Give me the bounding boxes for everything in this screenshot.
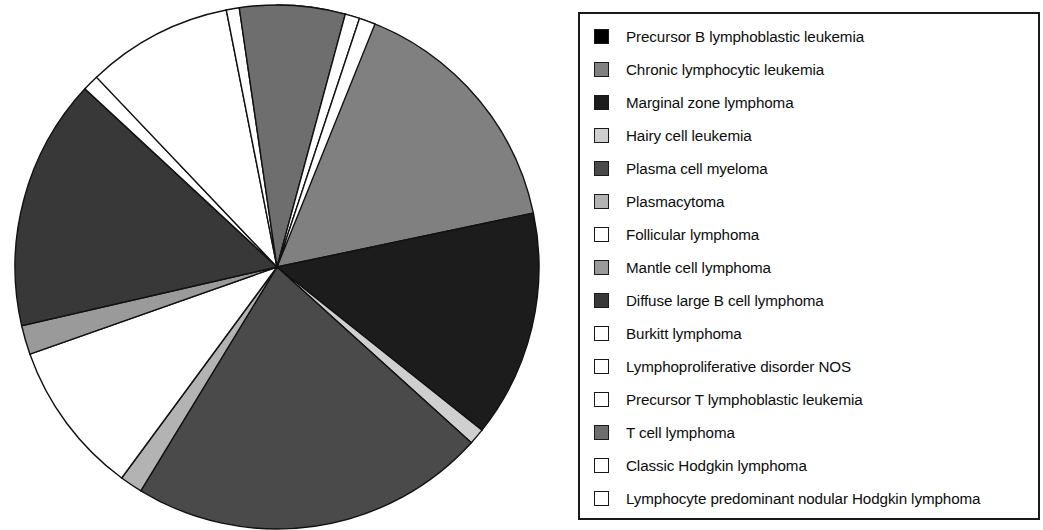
legend-box: Precursor B lymphoblastic leukemiaChroni…: [578, 12, 1040, 520]
legend-label: Precursor B lymphoblastic leukemia: [626, 29, 864, 44]
legend-item: Lymphoproliferative disorder NOS: [580, 350, 1038, 383]
legend-list: Precursor B lymphoblastic leukemiaChroni…: [580, 20, 1038, 515]
legend-swatch: [594, 95, 609, 110]
legend-swatch: [594, 29, 609, 44]
legend-item: Mantle cell lymphoma: [580, 251, 1038, 284]
legend-swatch: [594, 194, 609, 209]
legend-item: Hairy cell leukemia: [580, 119, 1038, 152]
pie-chart-area: [0, 0, 560, 530]
legend-item: Follicular lymphoma: [580, 218, 1038, 251]
legend-swatch: [594, 392, 609, 407]
legend-label: Marginal zone lymphoma: [626, 95, 793, 110]
legend-item: Burkitt lymphoma: [580, 317, 1038, 350]
legend-swatch: [594, 260, 609, 275]
legend-label: Mantle cell lymphoma: [626, 260, 771, 275]
legend-swatch: [594, 293, 609, 308]
legend-label: Burkitt lymphoma: [626, 326, 742, 341]
legend-item: Plasma cell myeloma: [580, 152, 1038, 185]
pie-chart-svg: [0, 0, 560, 530]
pie-slice-group: [15, 5, 539, 529]
legend-label: Follicular lymphoma: [626, 227, 759, 242]
legend-label: Chronic lymphocytic leukemia: [626, 62, 824, 77]
legend-swatch: [594, 491, 609, 506]
legend-item: Chronic lymphocytic leukemia: [580, 53, 1038, 86]
legend-item: Classic Hodgkin lymphoma: [580, 449, 1038, 482]
legend-label: Hairy cell leukemia: [626, 128, 752, 143]
legend-item: Plasmacytoma: [580, 185, 1038, 218]
legend-label: Lymphoproliferative disorder NOS: [626, 359, 851, 374]
pie-chart-figure: Precursor B lymphoblastic leukemiaChroni…: [0, 0, 1043, 530]
legend-swatch: [594, 326, 609, 341]
legend-item: Precursor B lymphoblastic leukemia: [580, 20, 1038, 53]
legend-label: Precursor T lymphoblastic leukemia: [626, 392, 863, 407]
legend-swatch: [594, 62, 609, 77]
legend-swatch: [594, 359, 609, 374]
legend-label: Plasmacytoma: [626, 194, 724, 209]
legend-swatch: [594, 458, 609, 473]
legend-item: T cell lymphoma: [580, 416, 1038, 449]
legend-label: Lymphocyte predominant nodular Hodgkin l…: [626, 491, 980, 506]
legend-item: Lymphocyte predominant nodular Hodgkin l…: [580, 482, 1038, 515]
legend-swatch: [594, 161, 609, 176]
legend-swatch: [594, 227, 609, 242]
legend-item: Precursor T lymphoblastic leukemia: [580, 383, 1038, 416]
legend-label: Classic Hodgkin lymphoma: [626, 458, 807, 473]
legend-item: Marginal zone lymphoma: [580, 86, 1038, 119]
legend-label: Diffuse large B cell lymphoma: [626, 293, 824, 308]
legend-item: Diffuse large B cell lymphoma: [580, 284, 1038, 317]
legend-label: T cell lymphoma: [626, 425, 735, 440]
legend-label: Plasma cell myeloma: [626, 161, 768, 176]
legend-swatch: [594, 128, 609, 143]
legend-swatch: [594, 425, 609, 440]
